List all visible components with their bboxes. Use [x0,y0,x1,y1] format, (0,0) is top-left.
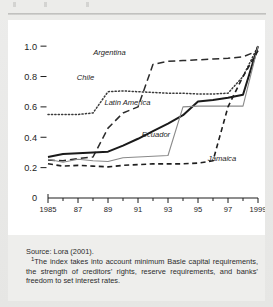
x-tick-label: 87 [74,205,82,214]
cutoff-text-ghost [10,2,160,7]
y-tick-label: 1.0 [24,42,37,52]
x-tick-label: 93 [164,205,172,214]
y-tick-label: 0.4 [24,133,37,143]
x-tick-label: 91 [134,205,142,214]
figure-notes: Source: Lora (2001). 1The index takes in… [26,247,258,286]
series-line-ecuador [48,46,258,162]
note-panel: Source: Lora (2001). 1The index takes in… [8,235,265,301]
y-tick-label: 0.6 [24,102,37,112]
series-label-argentina: Argentina [92,48,126,57]
series-line-latin-america [48,46,258,157]
y-tick-label: 0.2 [24,163,37,173]
y-tick-label: 0.8 [24,72,37,82]
x-tick-label: 89 [104,205,112,214]
x-tick-label: 97 [224,205,232,214]
footnote: 1The index takes into account minimum Ba… [26,257,258,285]
footnote-text: The index takes into account minimum Bas… [26,257,258,285]
x-tick-label: 1999 [250,205,265,214]
chart-panel: 00.20.40.60.81.019858789919395971999Arge… [8,20,265,235]
source-note: Source: Lora (2001). [26,247,258,256]
x-tick-label: 1985 [40,205,57,214]
page-top-strip [0,0,273,20]
series-label-ecuador: Ecuador [142,130,171,139]
y-tick-label: 0 [32,193,37,203]
series-label-chile: Chile [77,73,94,82]
x-tick-label: 95 [194,205,202,214]
horizontal-rule [8,13,266,15]
figure-page: 00.20.40.60.81.019858789919395971999Arge… [0,0,273,307]
line-chart: 00.20.40.60.81.019858789919395971999Arge… [8,20,265,235]
series-label-jamaica: Jamaica [207,154,236,163]
series-line-jamaica [48,51,258,167]
series-label-latin-america: Latin America [104,98,150,107]
